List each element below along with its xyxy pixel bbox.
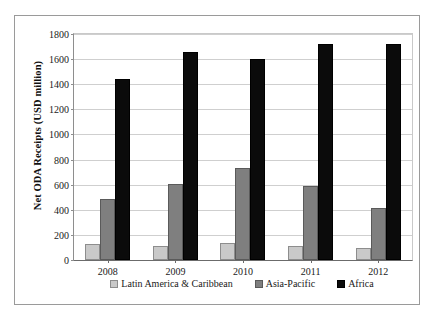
legend-swatch-icon bbox=[337, 280, 345, 288]
x-tick-label: 2010 bbox=[233, 266, 253, 277]
bar bbox=[220, 243, 235, 260]
x-tick-label: 2008 bbox=[98, 266, 118, 277]
bar bbox=[371, 208, 386, 260]
bar bbox=[183, 52, 198, 260]
y-axis-title: Net ODA Receipts (USD million) bbox=[32, 36, 43, 236]
x-tick-label: 2012 bbox=[368, 266, 388, 277]
x-tick-label: 2011 bbox=[301, 266, 321, 277]
x-tick-label: 2009 bbox=[165, 266, 185, 277]
legend-swatch-icon bbox=[255, 280, 263, 288]
bar bbox=[318, 44, 333, 260]
y-tick-mark bbox=[71, 260, 74, 261]
legend-label: Latin America & Caribbean bbox=[121, 278, 232, 289]
legend-item[interactable]: Africa bbox=[337, 278, 374, 289]
y-tick-label: 1000 bbox=[49, 129, 69, 140]
bar-group bbox=[277, 34, 345, 260]
bar-group bbox=[209, 34, 277, 260]
legend-item[interactable]: Latin America & Caribbean bbox=[110, 278, 232, 289]
bar bbox=[235, 168, 250, 260]
x-tick-mark bbox=[175, 260, 176, 263]
plot-area: 020040060080010001200140016001800 200820… bbox=[73, 33, 413, 261]
bar bbox=[85, 244, 100, 260]
bar bbox=[356, 248, 371, 260]
bar-group bbox=[344, 34, 412, 260]
bar bbox=[168, 184, 183, 260]
y-tick-label: 1600 bbox=[49, 54, 69, 65]
bar bbox=[100, 199, 115, 260]
legend-swatch-icon bbox=[110, 280, 118, 288]
y-tick-label: 1400 bbox=[49, 79, 69, 90]
bar bbox=[303, 186, 318, 260]
bar bbox=[153, 246, 168, 260]
x-tick-mark bbox=[378, 260, 379, 263]
y-tick-label: 800 bbox=[54, 154, 69, 165]
y-tick-label: 1200 bbox=[49, 104, 69, 115]
chart-legend: Latin America & CaribbeanAsia-PacificAfr… bbox=[73, 278, 411, 289]
y-tick-label: 400 bbox=[54, 204, 69, 215]
x-tick-mark bbox=[243, 260, 244, 263]
bar bbox=[250, 59, 265, 260]
bar bbox=[115, 79, 130, 260]
legend-label: Africa bbox=[348, 278, 374, 289]
bar-group bbox=[74, 34, 142, 260]
y-tick-label: 600 bbox=[54, 179, 69, 190]
x-tick-mark bbox=[108, 260, 109, 263]
legend-label: Asia-Pacific bbox=[266, 278, 315, 289]
y-tick-label: 200 bbox=[54, 229, 69, 240]
bar bbox=[386, 44, 401, 260]
chart-figure: Net ODA Receipts (USD million) 020040060… bbox=[0, 0, 447, 320]
legend-item[interactable]: Asia-Pacific bbox=[255, 278, 315, 289]
x-tick-mark bbox=[311, 260, 312, 263]
bar bbox=[288, 246, 303, 260]
y-tick-label: 1800 bbox=[49, 29, 69, 40]
y-tick-label: 0 bbox=[64, 255, 69, 266]
bar-group bbox=[142, 34, 210, 260]
